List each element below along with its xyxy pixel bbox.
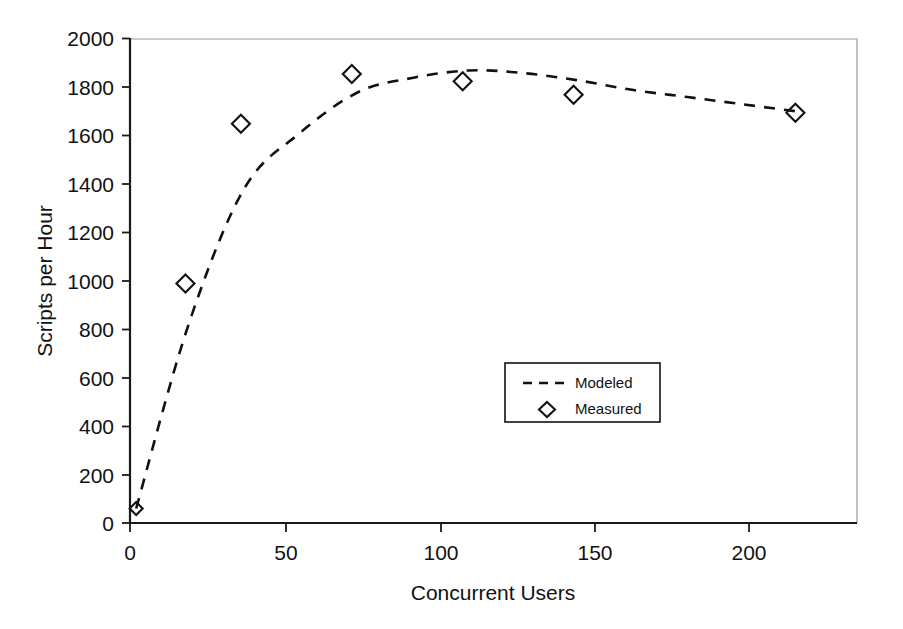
- legend-label-modeled: Modeled: [575, 374, 633, 391]
- measured-data-point: [565, 86, 583, 104]
- x-tick-label-150: 150: [577, 541, 612, 564]
- y-axis-title: Scripts per Hour: [33, 205, 56, 357]
- series-modeled: [136, 70, 798, 508]
- scatter-chart: 2000 1800 1600 1400 1200 1000 800 600 40…: [0, 0, 903, 629]
- y-tick-label-1000: 1000: [67, 270, 114, 293]
- plot-frame-top-right: [130, 39, 857, 523]
- y-tick-label-600: 600: [79, 367, 114, 390]
- x-tick-label-100: 100: [423, 541, 458, 564]
- x-tick-labels: 0 50 100 150 200: [124, 541, 766, 564]
- y-tick-label-400: 400: [79, 415, 114, 438]
- modeled-line: [136, 70, 798, 508]
- measured-data-point: [232, 115, 250, 133]
- y-tick-labels: 2000 1800 1600 1400 1200 1000 800 600 40…: [67, 27, 114, 535]
- chart-figure: 2000 1800 1600 1400 1200 1000 800 600 40…: [0, 0, 903, 629]
- y-tick-label-1400: 1400: [67, 173, 114, 196]
- chart-legend: Modeled Measured: [505, 363, 660, 422]
- series-measured: [130, 65, 805, 515]
- x-tick-label-50: 50: [274, 541, 297, 564]
- y-tick-label-1200: 1200: [67, 221, 114, 244]
- measured-data-point: [176, 274, 194, 292]
- y-axis-ticks: [122, 39, 130, 524]
- x-axis-ticks: [130, 523, 749, 532]
- x-axis-title: Concurrent Users: [411, 581, 576, 604]
- y-tick-label-0: 0: [102, 512, 114, 535]
- y-tick-label-200: 200: [79, 464, 114, 487]
- y-tick-label-2000: 2000: [67, 27, 114, 50]
- legend-label-measured: Measured: [575, 400, 642, 417]
- measured-data-point: [343, 65, 361, 83]
- measured-data-point: [454, 72, 472, 90]
- x-tick-label-200: 200: [731, 541, 766, 564]
- y-tick-label-1800: 1800: [67, 76, 114, 99]
- y-tick-label-800: 800: [79, 318, 114, 341]
- measured-data-point: [786, 104, 804, 122]
- x-tick-label-0: 0: [124, 541, 136, 564]
- y-tick-label-1600: 1600: [67, 124, 114, 147]
